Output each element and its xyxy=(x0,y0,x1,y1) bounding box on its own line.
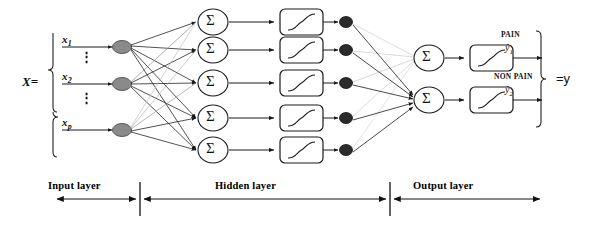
hidden-sum-symbol-5: Σ xyxy=(206,140,215,157)
output-hat-label-y1: ŷ1 xyxy=(505,42,513,56)
input-to-hidden-edges xyxy=(131,22,196,150)
output-hat-subscript: 2 xyxy=(509,90,513,98)
diagram-canvas: X= x1 ⋮ x2 ⋮ xp Σ Σ Σ Σ Σ Σ Σ PAIN ŷ1 NO… xyxy=(0,0,592,236)
output-hat-label-y2: ŷ2 xyxy=(505,84,513,98)
output-brace xyxy=(536,31,546,127)
input-nodes xyxy=(113,41,132,137)
output-sum-to-activation-arrows xyxy=(445,58,464,100)
input-brace xyxy=(48,33,58,157)
input-ellipsis-2: ⋮ xyxy=(80,96,93,100)
input-label-x1: x1 xyxy=(62,33,72,48)
hidden-sum-symbol-3: Σ xyxy=(206,73,215,90)
activation-to-hidden-node-arrows xyxy=(323,22,338,150)
hidden-to-output-edges xyxy=(353,24,414,152)
hidden-sum-symbol-2: Σ xyxy=(206,40,215,57)
hidden-sum-to-activation-arrows xyxy=(229,22,274,150)
input-vector-label: X= xyxy=(22,74,38,90)
hidden-sum-symbol-1: Σ xyxy=(206,12,215,29)
input-var-subscript: 1 xyxy=(68,39,72,48)
layer-label-hidden: Hidden layer xyxy=(215,180,276,191)
output-class-label-pain: PAIN xyxy=(501,30,520,39)
input-var-subscript: 2 xyxy=(68,76,72,85)
output-sum-symbol-1: Σ xyxy=(422,48,431,65)
output-class-label-non-pain: NON PAIN xyxy=(494,72,533,81)
hidden-sum-symbol-4: Σ xyxy=(206,108,215,125)
input-var-subscript: p xyxy=(68,122,72,131)
input-label-xp: xp xyxy=(62,116,72,131)
layer-label-output: Output layer xyxy=(413,180,473,191)
hidden-activation-boxes xyxy=(280,9,323,163)
input-label-x2: x2 xyxy=(62,70,72,85)
layer-label-input: Input layer xyxy=(48,180,101,191)
output-hat-subscript: 1 xyxy=(509,48,513,56)
hidden-output-nodes xyxy=(340,17,353,156)
output-vector-label: =y xyxy=(556,71,570,86)
output-sum-symbol-2: Σ xyxy=(422,90,431,107)
input-ellipsis-1: ⋮ xyxy=(80,55,93,59)
